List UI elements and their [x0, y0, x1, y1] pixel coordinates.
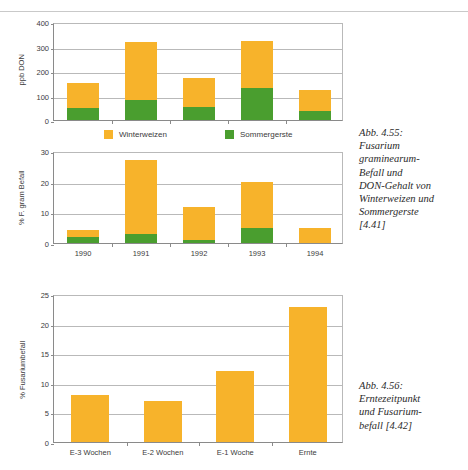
- bar-segment: [241, 41, 273, 88]
- x-tick-mark: [286, 243, 287, 247]
- bar-segment: [125, 42, 157, 101]
- y-tick-label: 5: [45, 411, 49, 419]
- bar: [183, 78, 215, 120]
- x-tick-mark: [286, 120, 287, 124]
- y-tick-mark: [51, 214, 54, 215]
- legend-label-sommergerste: Sommergerste: [240, 130, 292, 139]
- chart-fgram: 010203019901991199219931994 % F. gram Be…: [0, 148, 350, 263]
- y-tick-label: 10: [41, 381, 49, 389]
- bar-segment: [67, 237, 99, 243]
- caption-line: Erntezeitpunkt: [359, 392, 465, 405]
- y-tick-label: 20: [41, 180, 49, 188]
- bar-segment: [299, 228, 331, 243]
- caption-line: graminearum-: [359, 152, 465, 165]
- y-tick-label: 400: [36, 20, 49, 28]
- caption-line: Fusarium: [359, 139, 465, 152]
- bar-segment: [299, 111, 331, 120]
- bar: [216, 371, 254, 442]
- y-tick-label: 15: [41, 351, 49, 359]
- bar-segment: [71, 395, 109, 442]
- x-tick-mark: [112, 243, 113, 247]
- x-tick-label: E-2 Wochen: [142, 449, 183, 457]
- chart-don-plot-area: 0100200300400: [53, 23, 343, 121]
- bar-segment: [183, 240, 215, 243]
- bar: [67, 83, 99, 120]
- y-tick-mark: [51, 296, 54, 297]
- y-tick-mark: [51, 24, 54, 25]
- caption-line: [4.41]: [359, 218, 465, 231]
- bar-segment: [216, 371, 254, 442]
- figure-page: 0100200300400 ppb DON Winterweizen Somme…: [0, 0, 468, 470]
- x-tick-label: E-3 Wochen: [70, 449, 111, 457]
- bar-segment: [241, 228, 273, 243]
- y-tick-label: 25: [41, 292, 49, 300]
- bar-segment: [241, 88, 273, 120]
- bar-segment: [144, 401, 182, 442]
- y-tick-mark: [51, 153, 54, 154]
- chart-erntezeitpunkt-plot-area: 0510152025E-3 WochenE-2 WochenE-1 WocheE…: [53, 295, 343, 443]
- caption-line: Abb. 4.56:: [359, 379, 465, 392]
- x-tick-label: Ernte: [299, 449, 317, 457]
- chart-fgram-plot-area: 010203019901991199219931994: [53, 152, 343, 244]
- bar-segment: [289, 307, 327, 442]
- bar: [71, 395, 109, 442]
- legend-item-winterweizen: Winterweizen: [104, 130, 167, 139]
- caption-abb-4-56: Abb. 4.56:Erntezeitpunktund Fusarium-bef…: [359, 379, 465, 432]
- y-tick-label: 200: [36, 69, 49, 77]
- legend-swatch-sommergerste: [225, 130, 234, 139]
- y-tick-mark: [51, 184, 54, 185]
- bar: [183, 207, 215, 243]
- bar-segment: [183, 107, 215, 120]
- caption-line: Winterweizen und: [359, 192, 465, 205]
- chart-don-ylabel: ppb DON: [18, 40, 26, 100]
- y-tick-label: 10: [41, 211, 49, 219]
- caption-line: DON-Gehalt von: [359, 179, 465, 192]
- y-tick-mark: [51, 98, 54, 99]
- x-tick-label: 1992: [191, 250, 208, 258]
- bar-segment: [125, 100, 157, 120]
- y-tick-mark: [51, 49, 54, 50]
- caption-line: und Fusarium-: [359, 405, 465, 418]
- x-tick-label: 1990: [75, 250, 92, 258]
- legend-swatch-winterweizen: [104, 130, 113, 139]
- bar: [241, 41, 273, 120]
- bar-segment: [183, 78, 215, 107]
- top-divider: [0, 11, 468, 12]
- gridline: [54, 49, 342, 50]
- caption-line: Befall und: [359, 166, 465, 179]
- bar-segment: [241, 182, 273, 227]
- x-tick-mark: [228, 120, 229, 124]
- legend-label-winterweizen: Winterweizen: [119, 130, 167, 139]
- y-tick-label: 0: [45, 241, 49, 249]
- bar: [125, 42, 157, 120]
- caption-abb-4-55: Abb. 4.55:Fusariumgraminearum-Befall und…: [359, 126, 465, 232]
- y-tick-mark: [51, 414, 54, 415]
- y-tick-mark: [51, 326, 54, 327]
- bar: [289, 307, 327, 442]
- bar-segment: [67, 230, 99, 236]
- y-tick-label: 30: [41, 149, 49, 157]
- x-tick-mark: [272, 442, 273, 446]
- x-tick-mark: [170, 243, 171, 247]
- bar-segment: [183, 207, 215, 240]
- x-tick-mark: [112, 120, 113, 124]
- y-tick-mark: [51, 245, 54, 246]
- y-tick-label: 100: [36, 94, 49, 102]
- chart-erntezeitpunkt-ylabel: % Fusariumbefall: [19, 330, 27, 410]
- bar: [241, 182, 273, 243]
- y-tick-label: 20: [41, 322, 49, 330]
- bar-segment: [125, 160, 157, 234]
- y-tick-mark: [51, 122, 54, 123]
- bar: [299, 228, 331, 243]
- x-tick-mark: [127, 442, 128, 446]
- chart-fgram-ylabel: % F. gram Befall: [18, 162, 26, 234]
- caption-line: Abb. 4.55:: [359, 126, 465, 139]
- y-tick-label: 0: [45, 118, 49, 126]
- y-tick-mark: [51, 73, 54, 74]
- caption-line: befall [4.42]: [359, 419, 465, 432]
- gridline: [54, 184, 342, 185]
- bar-segment: [67, 83, 99, 108]
- caption-line: Sommergerste: [359, 205, 465, 218]
- bar: [144, 401, 182, 442]
- bar: [67, 230, 99, 243]
